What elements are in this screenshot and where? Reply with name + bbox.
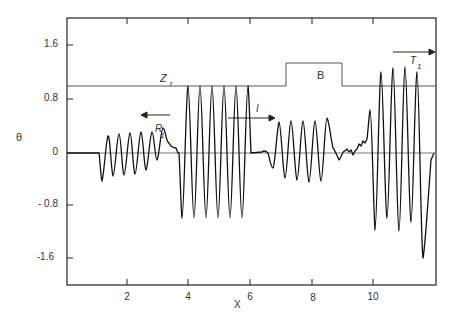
y-tick-label: - 0.8	[18, 198, 58, 209]
annotation-t1: T1	[410, 55, 421, 66]
x-tick-label: 10	[361, 291, 385, 302]
y-tick-label: 0	[18, 146, 58, 157]
x-axis-title: X	[234, 299, 241, 310]
annotation-t1-sub: 1	[417, 62, 421, 71]
annotation-i: I	[256, 103, 259, 114]
annotation-t1-main: T	[410, 55, 416, 66]
top-ticks	[127, 18, 373, 24]
y-tick-label: 1.6	[18, 38, 58, 49]
x-tick-label: 6	[238, 291, 262, 302]
x-tick-label: 8	[301, 292, 325, 303]
wave-curve	[67, 67, 434, 258]
x-ticks	[127, 279, 373, 285]
y-tick-label: 0.8	[18, 92, 58, 103]
annotation-zr: Zr	[160, 72, 169, 84]
y-ticks	[67, 45, 73, 258]
y-tick-label: -1.6	[14, 251, 54, 262]
x-tick-label: 2	[115, 291, 139, 302]
x-tick-label: 4	[176, 291, 200, 302]
annotation-r1-sub: 1	[160, 131, 164, 140]
annotation-b: B	[317, 69, 324, 81]
annotation-zr-main: Z	[160, 72, 167, 84]
plot-area	[0, 0, 451, 320]
annotation-r1: R1	[155, 123, 167, 134]
y-axis-title: θ	[16, 131, 22, 143]
